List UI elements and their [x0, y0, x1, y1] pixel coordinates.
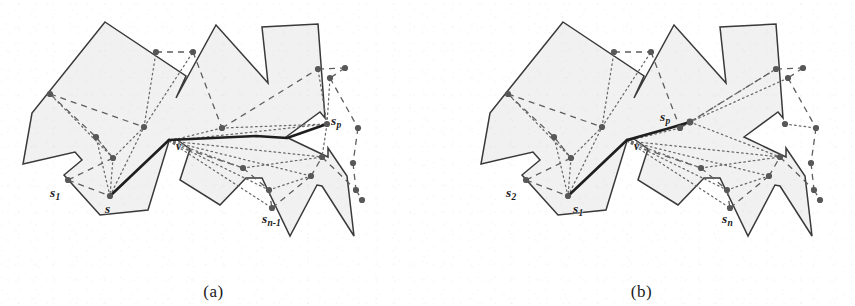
figure-root: s1 s sn-1 sp v (a) — [0, 0, 855, 306]
label-s1: s1 — [50, 186, 60, 202]
polygon-boundary — [23, 22, 354, 236]
label-sn: sn — [722, 212, 733, 228]
label-s2: s2 — [506, 186, 516, 202]
label-s1: s1 — [573, 202, 583, 218]
label-v: v — [176, 140, 181, 152]
panel-a-caption: (a) — [0, 282, 427, 302]
panel-b-caption: (b) — [428, 282, 855, 302]
label-sp: sp — [331, 114, 341, 130]
label-sp: sp — [660, 110, 670, 126]
figure-panel-b: s2 s1 sn sp v (b) — [428, 0, 855, 306]
label-s: s — [105, 202, 111, 218]
label-v: v — [634, 140, 639, 152]
polygon-boundary — [481, 22, 812, 236]
panel-a-drawing — [0, 0, 427, 306]
figure-panel-a: s1 s sn-1 sp v (a) — [0, 0, 427, 306]
panel-b-drawing — [428, 0, 855, 306]
label-sn-1: sn-1 — [262, 212, 281, 228]
